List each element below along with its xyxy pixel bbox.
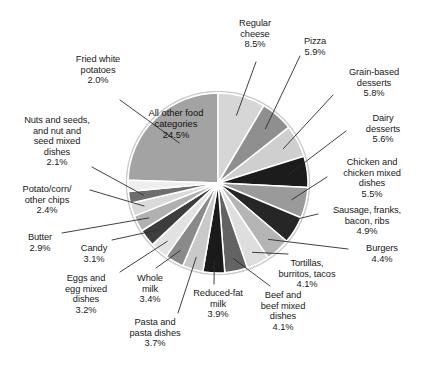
slice-label-fried-white-potatoes: Fried white potatoes 2.0% — [56, 54, 140, 86]
slice-label-potato-corn-other-chips: Potato/corn/ other chips 2.4% — [6, 184, 88, 216]
slice-label-reduced-fat-milk: Reduced-fat milk 3.9% — [180, 288, 256, 320]
slice-label-chicken-and-chicken-mixed-dishes: Chicken and chicken mixed dishes 5.5% — [324, 157, 420, 199]
slice-label-dairy-desserts: Dairy desserts 5.6% — [348, 113, 418, 145]
leader-line-eggs-and-egg-mixed-dishes — [120, 241, 167, 272]
slice-label-whole-milk: Whole milk 3.4% — [124, 273, 176, 305]
slice-label-eggs-and-egg-mixed-dishes: Eggs and egg mixed dishes 3.2% — [48, 273, 124, 315]
slice-label-pasta-and-pasta-dishes: Pasta and pasta dishes 3.7% — [112, 317, 198, 349]
slice-label-burgers: Burgers 4.4% — [352, 243, 412, 264]
slice-label-tortillas-burritos-tacos: Tortillas, burritos, tacos 4.1% — [264, 258, 350, 290]
slice-label-butter: Butter 2.9% — [14, 232, 66, 253]
slice-label-sausage-franks-bacon-ribs: Sausage, franks, bacon, ribs 4.9% — [312, 205, 422, 237]
slice-label-candy: Candy 3.1% — [70, 243, 118, 264]
leader-line-butter — [62, 218, 149, 233]
slice-label-pizza: Pizza 5.9% — [288, 36, 342, 57]
slice-label-nuts-and-seeds: Nuts and seeds, and nut and seed mixed d… — [8, 115, 106, 168]
pie-chart-page: All other food categories 24.5% Regular … — [0, 0, 424, 367]
slice-label-all-other-food-categories: All other food categories 24.5% — [128, 108, 224, 140]
slice-label-beef-and-beef-mixed-dishes: Beef and beef mixed dishes 4.1% — [246, 290, 320, 332]
slice-label-regular-cheese: Regular cheese 8.5% — [218, 18, 292, 50]
leader-line-grain-based-desserts — [283, 95, 333, 149]
slice-label-grain-based-desserts: Grain-based desserts 5.8% — [330, 67, 418, 99]
